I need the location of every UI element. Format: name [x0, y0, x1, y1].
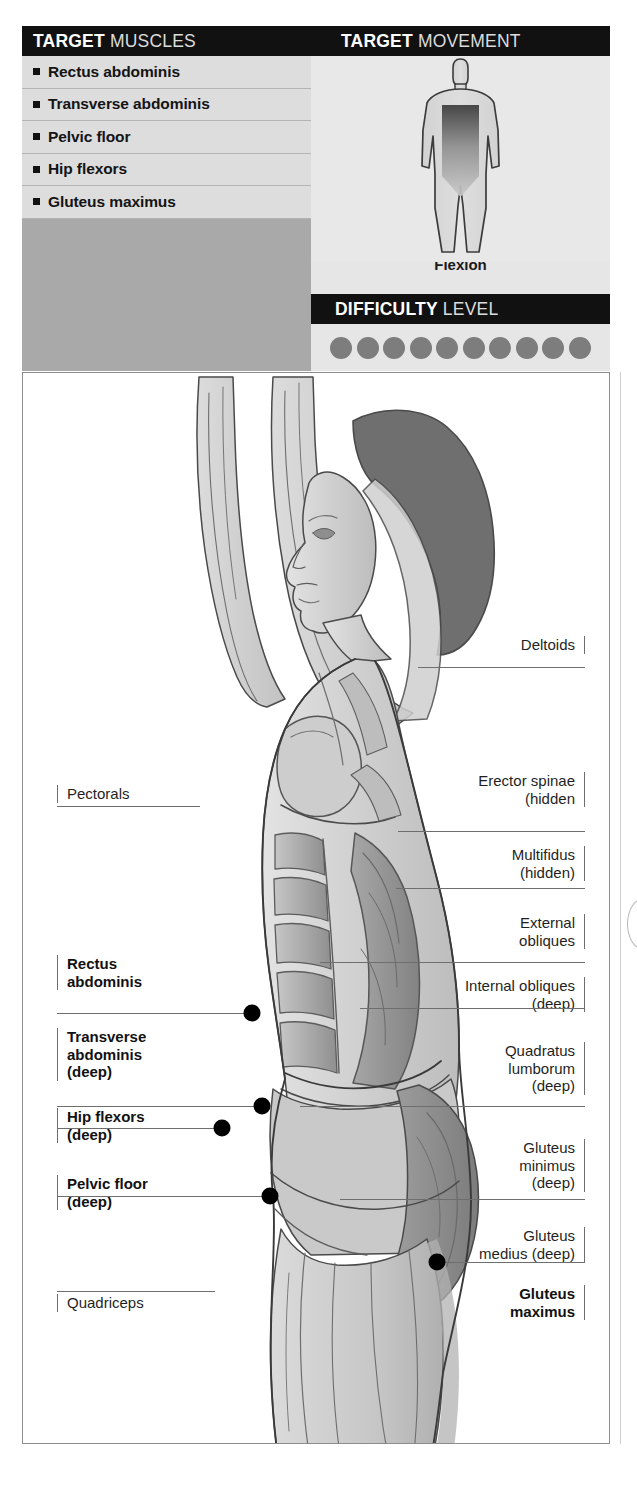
- difficulty-header-strong: DIFFICULTY: [335, 299, 438, 319]
- callout-gluteus-minimus: Gluteus minimus (deep): [440, 1139, 585, 1192]
- target-movement-header: TARGET MOVEMENT: [311, 26, 610, 56]
- callout-multifidus: Multifidus (hidden): [440, 846, 585, 881]
- leader-gluteus-minimus: [340, 1199, 585, 1200]
- anatomy-illustration-frame: PectoralsRectus abdominisTransverse abdo…: [22, 372, 610, 1444]
- hip-flexors-marker: [214, 1120, 231, 1137]
- page-edge-rule: [620, 372, 621, 1444]
- leader-pectorals: [57, 806, 200, 807]
- bullet-square-icon: [33, 68, 40, 75]
- callout-pelvic-floor: Pelvic floor (deep): [57, 1175, 187, 1210]
- target-movement-header-light: MOVEMENT: [418, 31, 521, 51]
- leader-deltoids: [418, 667, 585, 668]
- exercise-reference-page: TARGET MUSCLES Rectus abdominisTransvers…: [0, 0, 637, 1501]
- difficulty-dot: [463, 337, 485, 359]
- callout-hip-flexors: Hip flexors (deep): [57, 1108, 187, 1143]
- leader-quadratus-lumborum: [300, 1106, 585, 1107]
- difficulty-dot: [383, 337, 405, 359]
- leader-transverse-abdominis: [57, 1106, 262, 1107]
- difficulty-dot: [436, 337, 458, 359]
- leader-gluteus-maximus: [437, 1262, 585, 1263]
- callout-external-obliques: External obliques: [440, 914, 585, 949]
- difficulty-panel: DIFFICULTY LEVEL: [311, 294, 610, 371]
- leader-erector-spinae: [398, 831, 585, 832]
- difficulty-dot: [542, 337, 564, 359]
- callout-rectus-abdominis: Rectus abdominis: [57, 955, 187, 990]
- gluteus-maximus-marker: [429, 1254, 446, 1271]
- rectus-abdominis-marker: [244, 1005, 261, 1022]
- difficulty-dot: [569, 337, 591, 359]
- target-muscle-row: Hip flexors: [22, 154, 311, 187]
- target-muscle-label: Rectus abdominis: [48, 63, 180, 81]
- difficulty-header: DIFFICULTY LEVEL: [311, 294, 610, 324]
- callout-erector-spinae: Erector spinae (hidden: [440, 772, 585, 807]
- difficulty-dot: [410, 337, 432, 359]
- bullet-square-icon: [33, 198, 40, 205]
- anatomy-figure: [23, 373, 610, 1444]
- target-muscle-row: Pelvic floor: [22, 121, 311, 154]
- target-muscles-header-light: MUSCLES: [110, 31, 196, 51]
- leader-quadriceps: [57, 1291, 215, 1292]
- difficulty-header-light: LEVEL: [443, 299, 498, 319]
- movement-figure-wrap: [311, 56, 610, 262]
- callout-quadriceps: Quadriceps: [57, 1294, 197, 1312]
- leader-rectus-abdominis: [57, 1013, 252, 1014]
- transverse-abdominis-marker: [254, 1098, 271, 1115]
- callout-pectorals: Pectorals: [57, 785, 177, 803]
- callout-quadratus-lumborum: Quadratus lumborum (deep): [440, 1042, 585, 1095]
- target-muscles-header: TARGET MUSCLES: [22, 26, 311, 56]
- info-panel: TARGET MUSCLES Rectus abdominisTransvers…: [22, 26, 610, 371]
- panel-filler-block: [22, 219, 311, 371]
- target-muscle-row: Rectus abdominis: [22, 56, 311, 89]
- target-movement-header-strong: TARGET: [341, 31, 413, 51]
- callout-gluteus-maximus: Gluteus maximus: [440, 1285, 585, 1320]
- leader-pelvic-floor: [57, 1196, 270, 1197]
- callout-gluteus-medius: Gluteus medius (deep): [440, 1227, 585, 1262]
- bullet-square-icon: [33, 166, 40, 173]
- target-muscle-label: Transverse abdominis: [48, 95, 210, 113]
- target-muscle-label: Gluteus maximus: [48, 193, 176, 211]
- anatomical-figure-illustration: [23, 373, 610, 1444]
- target-muscle-row: Gluteus maximus: [22, 186, 311, 219]
- target-muscles-list: Rectus abdominisTransverse abdominisPelv…: [22, 56, 311, 219]
- pelvic-floor-marker: [262, 1188, 279, 1205]
- target-muscle-label: Pelvic floor: [48, 128, 130, 146]
- difficulty-dot: [489, 337, 511, 359]
- leader-multifidus: [396, 888, 585, 889]
- target-muscles-header-strong: TARGET: [33, 31, 105, 51]
- bullet-square-icon: [33, 133, 40, 140]
- target-muscle-label: Hip flexors: [48, 160, 127, 178]
- difficulty-dot: [516, 337, 538, 359]
- target-muscles-panel: TARGET MUSCLES Rectus abdominisTransvers…: [22, 26, 311, 371]
- difficulty-dots: [311, 324, 610, 370]
- callout-internal-obliques: Internal obliques (deep): [440, 977, 585, 1012]
- page-edge-circle-artifact: [627, 898, 637, 950]
- leader-hip-flexors: [57, 1128, 222, 1129]
- body-silhouette-flexion-icon: [311, 56, 610, 262]
- leader-external-obliques: [320, 962, 585, 963]
- difficulty-dot: [357, 337, 379, 359]
- target-muscle-row: Transverse abdominis: [22, 89, 311, 122]
- leader-internal-obliques: [360, 1008, 585, 1009]
- bullet-square-icon: [33, 101, 40, 108]
- difficulty-dot: [330, 337, 352, 359]
- callout-deltoids: Deltoids: [455, 636, 585, 654]
- target-movement-panel: TARGET MOVEMENT: [311, 26, 610, 294]
- callout-transverse-abdominis: Transverse abdominis (deep): [57, 1028, 187, 1081]
